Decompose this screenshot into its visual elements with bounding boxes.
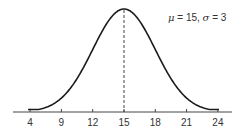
x-tick-label: 4 [27, 117, 33, 128]
x-axis-tick-labels: 491215182124 [27, 117, 224, 128]
x-tick-label: 24 [212, 117, 224, 128]
x-tick-label: 21 [181, 117, 193, 128]
x-tick-label: 12 [87, 117, 99, 128]
x-tick-label: 15 [118, 117, 130, 128]
mu-value: = 15, [175, 12, 203, 23]
x-tick-label: 18 [150, 117, 162, 128]
normal-distribution-chart: 491215182124 μ = 15, σ = 3 [0, 0, 245, 135]
sigma-value: = 3 [209, 12, 226, 23]
parameter-annotation: μ = 15, σ = 3 [168, 12, 227, 23]
x-tick-label: 9 [59, 117, 65, 128]
normal-curve [28, 9, 219, 110]
